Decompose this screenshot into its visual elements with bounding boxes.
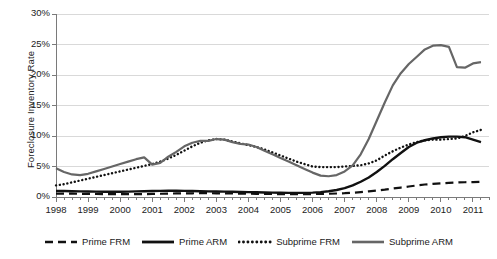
y-axis-tick-label: 0% — [14, 190, 50, 201]
legend-swatch-subprime-arm — [351, 237, 385, 247]
y-axis-tick-label: 25% — [14, 38, 50, 49]
series-line-subprime-frm — [56, 130, 481, 186]
legend-label-subprime-arm: Subprime ARM — [389, 236, 453, 247]
legend-label-subprime-frm: Subprime FRM — [276, 236, 340, 247]
gridlines — [56, 14, 489, 167]
legend-label-prime-arm: Prime ARM — [179, 236, 227, 247]
foreclosure-inventory-rate-chart: Foreclosure Inventory Rate 0%5%10%15%20%… — [0, 0, 497, 259]
chart-legend: Prime FRMPrime ARMSubprime FRMSubprime A… — [0, 236, 497, 247]
y-axis-tick-label: 30% — [14, 7, 50, 18]
y-axis-tick-label: 10% — [14, 129, 50, 140]
x-axis-tick-label: 2011 — [451, 204, 495, 215]
axis-ticks — [52, 14, 489, 202]
legend-item-prime-frm[interactable]: Prime FRM — [44, 236, 130, 247]
y-axis-tick-label: 5% — [14, 160, 50, 171]
y-axis-tick-label: 20% — [14, 68, 50, 79]
legend-label-prime-frm: Prime FRM — [82, 236, 130, 247]
legend-swatch-prime-arm — [141, 237, 175, 247]
legend-item-prime-arm[interactable]: Prime ARM — [141, 236, 227, 247]
series-line-subprime-arm — [56, 45, 481, 176]
series-lines — [56, 45, 481, 194]
legend-item-subprime-frm[interactable]: Subprime FRM — [238, 236, 340, 247]
legend-item-subprime-arm[interactable]: Subprime ARM — [351, 236, 453, 247]
legend-swatch-subprime-frm — [238, 237, 272, 247]
legend-swatch-prime-frm — [44, 237, 78, 247]
y-axis-tick-label: 15% — [14, 99, 50, 110]
plot-area — [0, 0, 497, 259]
